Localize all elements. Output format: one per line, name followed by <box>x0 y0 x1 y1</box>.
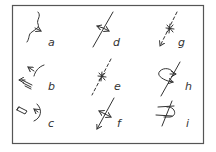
diagram-canvas: a b c d e f g h <box>0 0 216 152</box>
symbol-c-icon <box>17 104 41 121</box>
symbol-i-icon <box>156 101 175 126</box>
label-d: d <box>113 36 121 49</box>
label-i: i <box>186 117 189 130</box>
label-a: a <box>48 36 55 49</box>
symbol-f-icon <box>97 98 114 129</box>
symbol-g-icon <box>160 12 177 46</box>
symbol-b-icon <box>19 65 44 89</box>
label-g: g <box>178 36 185 49</box>
label-e: e <box>114 80 121 93</box>
symbol-e-icon <box>92 59 111 95</box>
label-b: b <box>48 80 55 93</box>
symbol-h-icon <box>159 62 180 96</box>
symbol-d-icon <box>93 12 113 47</box>
label-f: f <box>117 117 123 130</box>
symbol-a-icon <box>27 12 41 42</box>
label-h: h <box>185 80 192 93</box>
symbol-diagram: a b c d e f g h <box>0 0 216 152</box>
label-c: c <box>48 117 54 130</box>
